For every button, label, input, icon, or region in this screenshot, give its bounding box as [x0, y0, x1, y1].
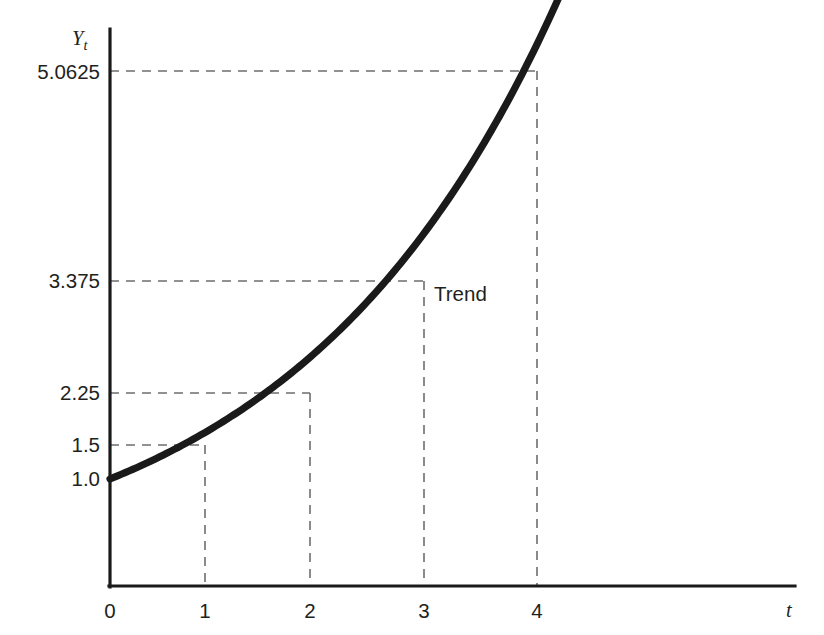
y-tick-label-2-25: 2.25: [0, 383, 100, 404]
x-tick-label-4: 4: [531, 601, 542, 622]
y-tick-label-1-0: 1.0: [0, 469, 100, 490]
x-tick-label-3: 3: [418, 601, 429, 622]
guide-lines-group: [110, 71, 537, 586]
y-tick-label-3-375: 3.375: [0, 271, 100, 292]
trend-series: [110, 0, 564, 479]
chart-canvas: [0, 0, 824, 635]
y-axis-title-base: Y: [72, 27, 83, 49]
x-tick-label-2: 2: [304, 601, 315, 622]
trend-curve-path: [110, 0, 564, 479]
x-axis-title: t: [786, 600, 792, 621]
trend-annotation-label: Trend: [434, 284, 487, 305]
x-tick-label-0: 0: [104, 601, 115, 622]
y-axis-title: Yt: [72, 28, 87, 53]
y-tick-label-1-5: 1.5: [0, 435, 100, 456]
x-tick-label-1: 1: [199, 601, 210, 622]
chart-figure: Yt 5.0625 3.375 2.25 1.5 1.0 0 1 2 3 4 t…: [0, 0, 824, 635]
y-axis-title-subscript: t: [83, 37, 87, 53]
axes-group: [109, 29, 795, 587]
y-tick-label-5-0625: 5.0625: [0, 62, 100, 83]
